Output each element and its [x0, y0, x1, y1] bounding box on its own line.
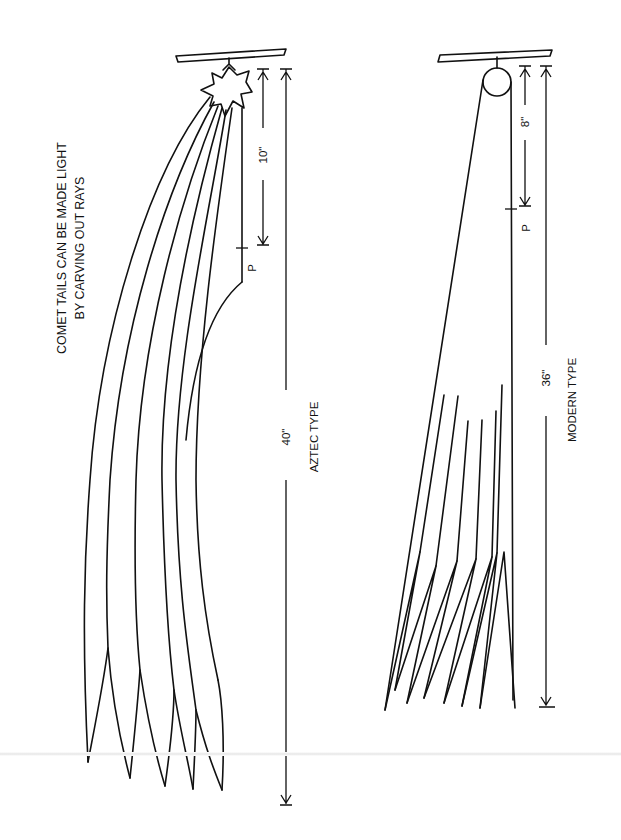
aztec-star-head-icon [201, 67, 252, 116]
modern-long-dimension-label: 36" [540, 370, 552, 387]
aztec-long-dimension-label: 40" [280, 429, 292, 446]
aztec-pivot-label: P [246, 264, 258, 272]
aztec-comet-tails [84, 97, 242, 790]
modern-8in-dimension [519, 66, 531, 206]
modern-type-drawing [385, 50, 555, 710]
modern-rays [385, 385, 515, 710]
modern-title: MODERN TYPE [566, 358, 578, 442]
aztec-propeller-icon [176, 49, 286, 62]
modern-short-dimension-label: 8" [519, 117, 531, 127]
comet-note-line1: COMET TAILS CAN BE MADE LIGHT [55, 142, 69, 354]
page-fold-line [0, 752, 621, 756]
modern-pivot-label: P [520, 224, 532, 232]
aztec-title: AZTEC TYPE [308, 401, 320, 472]
aztec-short-dimension-label: 10" [257, 147, 269, 164]
comet-note-line2: BY CARVING OUT RAYS [73, 177, 87, 320]
modern-circle-head-icon [483, 68, 511, 96]
modern-propeller-icon [438, 50, 552, 62]
comet-weathervane-diagram: P 10" 40" AZTEC TYPE COMET TAILS CAN BE … [0, 0, 621, 840]
